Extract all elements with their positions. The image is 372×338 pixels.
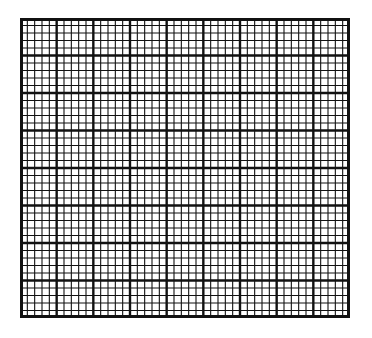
graph-paper-grid [20,18,350,318]
